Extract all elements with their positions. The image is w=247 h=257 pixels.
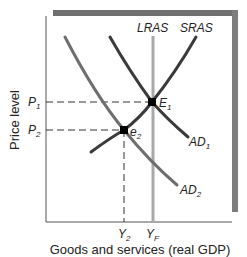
x-axis-title: Goods and services (real GDP): [50, 242, 231, 257]
frame-shadow-right: [232, 10, 238, 212]
y-axis-title: Price level: [7, 90, 22, 150]
e1-point: [148, 98, 156, 106]
frame-shadow-top: [53, 10, 238, 17]
lras-label: LRAS: [137, 21, 168, 35]
yf-tick-label: YF: [146, 227, 160, 243]
sras-label: SRAS: [180, 21, 213, 35]
p1-tick-label: P1: [28, 95, 40, 111]
p2-tick-label: P2: [28, 123, 41, 139]
ad-as-diagram: LRAS SRAS AD1 AD2 E1 e2 P1 P2 Y2 YF Pric…: [0, 0, 247, 257]
y2-tick-label: Y2: [118, 227, 131, 243]
e2-point: [120, 126, 128, 134]
